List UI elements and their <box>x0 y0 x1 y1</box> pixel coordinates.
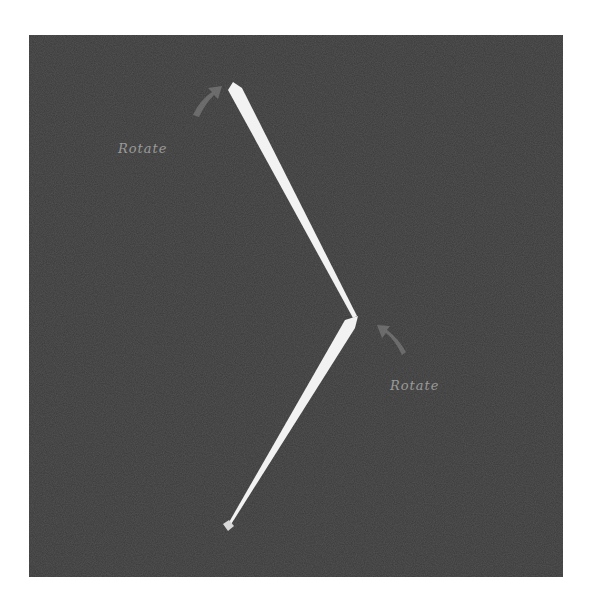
bone-chain-diagram <box>0 0 591 609</box>
rotate-label-joint: Rotate <box>390 378 440 393</box>
canvas-texture <box>29 35 563 577</box>
rotate-label-top: Rotate <box>118 141 168 156</box>
